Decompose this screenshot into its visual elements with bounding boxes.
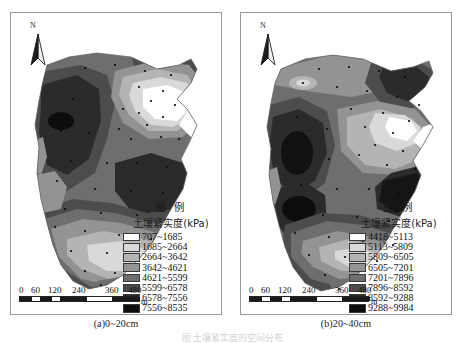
scalebar-tick: 240	[302, 285, 316, 295]
scalebar-a: 0 60 120 240 360 480 m	[19, 285, 147, 302]
scalebar-a-labels: 0 60 120 240 360 480	[19, 285, 147, 296]
scalebar-tick: 120	[48, 285, 62, 295]
map-panel-a: N 图 例 土壤紧实度(kPa) 707~1685 1685~2664	[10, 12, 222, 315]
north-arrow-icon	[25, 32, 51, 68]
legend-swatch	[123, 253, 140, 262]
legend-item: 7556~8535	[123, 303, 219, 313]
legend-swatch	[349, 274, 366, 283]
legend-a-title: 图 例	[123, 199, 219, 214]
panel-b-caption: (b)20~40cm	[240, 318, 452, 329]
figure-container: N 图 例 土壤紧实度(kPa) 707~1685 1685~2664	[0, 0, 465, 343]
scalebar-b-unit: m	[371, 296, 378, 306]
legend-item-label: 2664~3642	[142, 252, 187, 262]
legend-item-label: 5809~6505	[368, 252, 413, 262]
scalebar-tick: 0	[19, 285, 24, 295]
scalebar-tick: 360	[105, 285, 119, 295]
scalebar-a-unit: m	[141, 296, 148, 306]
scalebar-b: 0 60 120 240 360 480 m	[249, 285, 377, 302]
scalebar-tick: 360	[335, 285, 349, 295]
north-arrow-icon	[255, 32, 281, 68]
legend-swatch	[123, 233, 140, 242]
legend-swatch	[349, 243, 366, 252]
legend-swatch	[349, 253, 366, 262]
scalebar-tick: 60	[31, 285, 40, 295]
legend-swatch	[349, 233, 366, 242]
legend-swatch	[123, 263, 140, 272]
legend-b-subtitle: 土壤紧实度(kPa)	[349, 215, 449, 230]
scalebar-tick: 60	[261, 285, 270, 295]
legend-swatch	[123, 243, 140, 252]
scalebar-tick: 480	[128, 285, 142, 295]
scalebar-tick: 0	[249, 285, 254, 295]
map-panel-b: N 图 例 土壤紧实度(kPa) 4418~5113 5113~5809	[240, 12, 452, 315]
legend-item: 9288~9984	[349, 303, 449, 313]
scalebar-a-bar	[19, 296, 139, 302]
scalebar-tick: 240	[72, 285, 86, 295]
legend-a-subtitle: 土壤紧实度(kPa)	[123, 215, 219, 230]
legend-swatch	[349, 263, 366, 272]
scalebar-tick: 120	[278, 285, 292, 295]
scalebar-b-labels: 0 60 120 240 360 480	[249, 285, 377, 296]
legend-b-title: 图 例	[349, 199, 449, 214]
figure-caption: 图 土壤紧实度的空间分布	[0, 332, 465, 343]
legend-swatch	[123, 274, 140, 283]
north-arrow-a: N	[25, 21, 51, 69]
north-label-b: N	[260, 21, 266, 30]
north-label-a: N	[30, 21, 36, 30]
scalebar-tick: 480	[358, 285, 372, 295]
legend-swatch	[349, 304, 366, 313]
north-arrow-b: N	[255, 21, 281, 69]
legend-item-label: 7556~8535	[142, 303, 187, 313]
panel-a-caption: (a)0~20cm	[10, 318, 222, 329]
legend-swatch	[123, 304, 140, 313]
scalebar-b-bar	[249, 296, 369, 302]
